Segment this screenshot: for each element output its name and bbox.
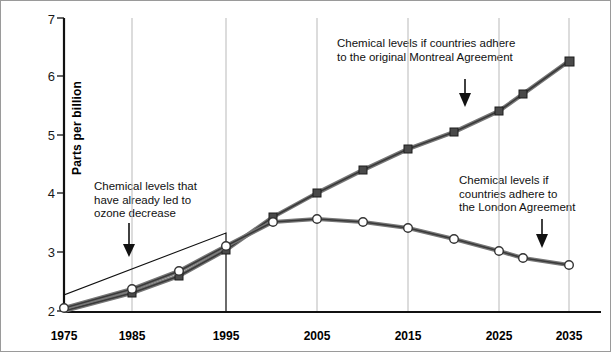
data-point-marker (269, 218, 278, 227)
chart-frame: Parts per billion 7 6 5 4 3 2 1975 1985 … (0, 0, 611, 352)
axes (57, 18, 601, 312)
data-point-marker (222, 242, 231, 251)
data-point-marker (175, 267, 184, 276)
data-point-marker (404, 224, 413, 233)
data-point-marker (565, 57, 574, 66)
annotation-arrow-montreal (459, 79, 471, 107)
data-point-marker (519, 254, 528, 263)
data-point-marker (404, 145, 412, 153)
series-montreal-agreement (64, 57, 574, 311)
data-point-marker (565, 261, 574, 270)
data-point-marker (519, 90, 527, 98)
data-point-marker (313, 189, 321, 197)
chart-stage: Parts per billion 7 6 5 4 3 2 1975 1985 … (1, 1, 611, 352)
data-point-marker (128, 285, 137, 294)
data-point-marker (313, 215, 322, 224)
data-point-marker (359, 218, 368, 227)
data-point-marker (495, 107, 503, 115)
annotation-arrow-historical (123, 223, 135, 257)
data-point-marker (359, 166, 367, 174)
data-point-marker (495, 247, 504, 256)
data-point-marker (450, 128, 458, 136)
annotation-arrow-london (536, 219, 548, 248)
chart-canvas (1, 1, 611, 352)
data-point-marker (60, 304, 69, 313)
data-point-marker (450, 235, 459, 244)
